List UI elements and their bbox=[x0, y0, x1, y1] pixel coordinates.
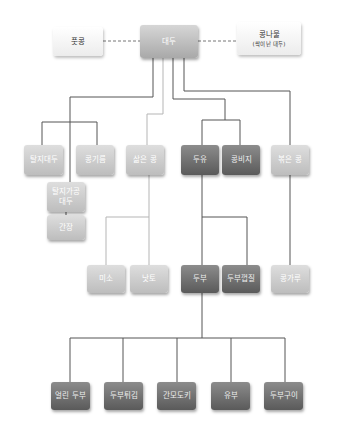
node-label: 대두 bbox=[162, 37, 176, 47]
node-soy-sauce: 간장 bbox=[47, 215, 85, 240]
node-grilled-tofu: 두부구이 bbox=[264, 382, 303, 410]
node-label: 두유 bbox=[193, 155, 207, 165]
node-label: 낫토 bbox=[142, 274, 156, 284]
soybean-product-tree: 풋콩 대두 콩나물 (싹이 난 대두) 탈지대두 콩기름 삶은 콩 두유 콩비지… bbox=[0, 0, 339, 438]
node-soybean-oil: 콩기름 bbox=[76, 145, 114, 175]
node-label: 콩나물 bbox=[259, 30, 280, 40]
node-soybean: 대두 bbox=[140, 25, 198, 58]
node-miso: 미소 bbox=[87, 265, 125, 293]
node-soy-milk: 두유 bbox=[181, 145, 219, 175]
node-yuba: 유부 bbox=[211, 382, 250, 410]
node-label: 두부구이 bbox=[270, 391, 298, 401]
node-label: 유부 bbox=[224, 391, 238, 401]
node-soybean-flour: 콩가루 bbox=[271, 265, 309, 293]
node-label: 풋콩 bbox=[71, 37, 85, 47]
node-label: 콩기름 bbox=[85, 155, 106, 165]
node-label: 삶은 콩 bbox=[133, 155, 156, 165]
node-okara: 콩비지 bbox=[222, 145, 260, 175]
node-natto: 낫토 bbox=[130, 265, 168, 293]
node-fried-tofu: 두부튀김 bbox=[104, 382, 143, 410]
node-label: 미소 bbox=[99, 274, 113, 284]
node-label: 두부튀김 bbox=[110, 391, 138, 401]
node-ganmodoki: 간모도키 bbox=[157, 382, 196, 410]
node-tofu: 두부 bbox=[181, 265, 219, 293]
node-roasted-beans: 볶은 콩 bbox=[271, 145, 309, 175]
node-label-line2: 대두 bbox=[59, 197, 73, 207]
node-tofu-skin: 두부껍질 bbox=[222, 265, 260, 293]
node-label: 얼린 두부 bbox=[55, 391, 85, 401]
node-label: 콩가루 bbox=[280, 274, 301, 284]
node-label: 콩비지 bbox=[231, 155, 252, 165]
node-bean-sprout: 콩나물 (싹이 난 대두) bbox=[237, 22, 301, 55]
node-defatted-soybean: 탈지대두 bbox=[24, 145, 63, 175]
node-label: 두부껍질 bbox=[227, 274, 255, 284]
node-label: 간장 bbox=[59, 223, 73, 233]
node-label: 두부 bbox=[193, 274, 207, 284]
node-sublabel: (싹이 난 대두) bbox=[253, 40, 286, 48]
node-label: 탈지대두 bbox=[30, 155, 58, 165]
node-green-soybean: 풋콩 bbox=[53, 27, 103, 56]
node-label-line1: 탈지가공 bbox=[52, 187, 80, 197]
node-boiled-beans: 삶은 콩 bbox=[126, 145, 164, 175]
node-label: 볶은 콩 bbox=[278, 155, 301, 165]
node-label: 간모도키 bbox=[163, 391, 191, 401]
node-defatted-processed-soybean: 탈지가공 대두 bbox=[47, 182, 85, 212]
node-frozen-tofu: 얼린 두부 bbox=[51, 382, 90, 410]
